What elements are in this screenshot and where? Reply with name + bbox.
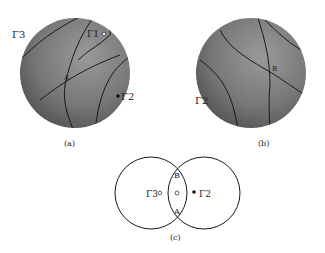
gamma2-marker-c bbox=[192, 190, 196, 194]
caption-a: (a) bbox=[64, 139, 75, 148]
label-gamma2-a: Γ2 bbox=[121, 91, 134, 102]
label-gamma3-a: Γ3 bbox=[12, 29, 25, 40]
label-gamma2-b: Γ2 bbox=[195, 95, 208, 106]
label-point-a: A bbox=[63, 74, 70, 82]
label-gamma1-a: Γ1 bbox=[87, 29, 99, 39]
label-gamma3-c: Γ3 bbox=[146, 189, 158, 199]
panel-a: Γ3 Γ1 A Γ2 (a) bbox=[12, 10, 134, 148]
panel-b: B Γ2 (b) bbox=[195, 18, 310, 148]
label-top-c: B bbox=[174, 171, 180, 180]
label-point-b: B bbox=[272, 65, 277, 73]
caption-c: (c) bbox=[170, 233, 181, 242]
sphere-b bbox=[196, 18, 306, 128]
label-gamma2-c: Γ2 bbox=[199, 189, 211, 199]
caption-b: (b) bbox=[258, 139, 269, 148]
center-marker bbox=[175, 191, 179, 195]
label-bottom-c: A bbox=[173, 207, 180, 216]
figure: Γ3 Γ1 A Γ2 (a) B Γ2 (b) Γ3 Γ2 B A (c) bbox=[0, 0, 325, 253]
panel-c: Γ3 Γ2 B A (c) bbox=[115, 157, 240, 242]
gamma1-marker bbox=[102, 32, 106, 36]
gamma2-marker bbox=[116, 94, 120, 98]
gamma3-marker bbox=[158, 191, 162, 195]
